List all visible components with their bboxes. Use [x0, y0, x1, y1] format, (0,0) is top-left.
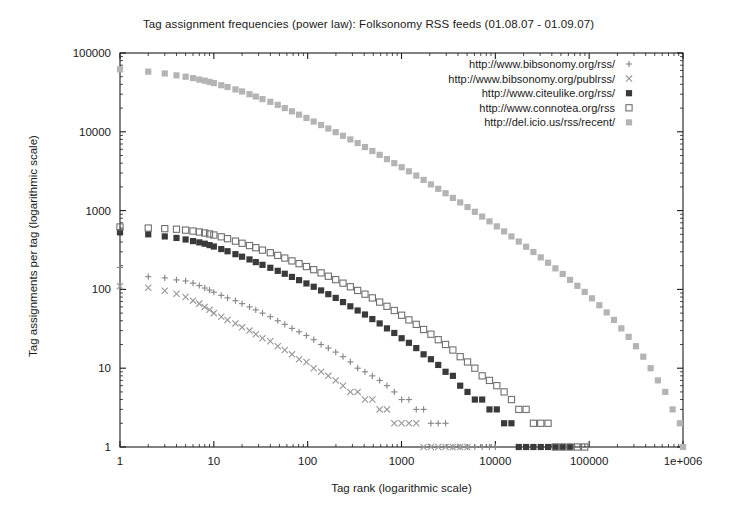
marker-open-square — [501, 389, 507, 395]
marker-open-square — [267, 250, 273, 256]
marker-open-square — [538, 420, 544, 426]
marker-light-square — [435, 186, 441, 192]
marker-filled-square — [340, 299, 346, 305]
marker-filled-square — [282, 271, 288, 277]
marker-light-square — [362, 144, 368, 150]
marker-light-square — [596, 302, 602, 308]
marker-filled-square — [442, 369, 448, 375]
marker-light-square — [545, 260, 551, 266]
x-tick-label: 100 — [298, 455, 317, 467]
marker-open-square — [391, 307, 397, 313]
marker-light-square — [626, 119, 632, 125]
marker-light-square — [173, 72, 179, 78]
marker-light-square — [211, 80, 217, 86]
marker-filled-square — [472, 396, 478, 402]
marker-open-square — [421, 326, 427, 332]
marker-open-square — [190, 228, 196, 234]
marker-filled-square — [333, 295, 339, 301]
marker-light-square — [457, 199, 463, 205]
marker-open-square — [435, 337, 441, 343]
marker-light-square — [450, 195, 456, 201]
marker-open-square — [377, 299, 383, 305]
marker-light-square — [501, 228, 507, 234]
marker-filled-square — [253, 259, 259, 265]
y-tick-label: 1 — [105, 441, 111, 453]
series-3 — [117, 224, 588, 450]
marker-filled-square — [318, 287, 324, 293]
y-tick-label: 1000 — [85, 205, 111, 217]
marker-light-square — [218, 82, 224, 88]
marker-open-square — [275, 252, 281, 258]
marker-light-square — [655, 377, 661, 383]
marker-filled-square — [239, 254, 245, 260]
marker-filled-square — [464, 389, 470, 395]
marker-filled-square — [377, 320, 383, 326]
marker-light-square — [224, 84, 230, 90]
marker-light-square — [582, 289, 588, 295]
marker-light-square — [289, 108, 295, 114]
marker-light-square — [567, 277, 573, 283]
marker-open-square — [173, 226, 179, 232]
marker-filled-square — [560, 444, 566, 450]
marker-light-square — [523, 244, 529, 250]
marker-light-square — [669, 406, 675, 412]
marker-filled-square — [516, 444, 522, 450]
marker-light-square — [479, 213, 485, 219]
marker-filled-square — [311, 284, 317, 290]
legend-label-1: http://www.bibsonomy.org/publrss/ — [448, 73, 616, 85]
marker-light-square — [472, 209, 478, 215]
chart-figure: Tag assignment frequencies (power law): … — [0, 0, 737, 516]
marker-light-square — [369, 148, 375, 154]
marker-light-square — [464, 204, 470, 210]
marker-open-square — [523, 406, 529, 412]
x-tick-label: 1 — [117, 455, 123, 467]
marker-open-square — [289, 258, 295, 264]
marker-light-square — [196, 76, 202, 82]
marker-light-square — [406, 168, 412, 174]
marker-light-square — [618, 325, 624, 331]
marker-light-square — [377, 152, 383, 158]
marker-filled-square — [523, 444, 529, 450]
marker-open-square — [333, 277, 339, 283]
marker-open-square — [296, 261, 302, 267]
marker-open-square — [626, 105, 632, 111]
marker-filled-square — [369, 316, 375, 322]
x-tick-label: 1e+006 — [664, 455, 703, 467]
marker-filled-square — [494, 406, 500, 412]
marker-light-square — [604, 309, 610, 315]
marker-light-square — [267, 99, 273, 105]
y-tick-label: 10000 — [79, 126, 111, 138]
y-tick-label: 100 — [92, 283, 111, 295]
marker-light-square — [384, 156, 390, 162]
marker-open-square — [442, 341, 448, 347]
marker-filled-square — [224, 248, 230, 254]
marker-light-square — [560, 271, 566, 277]
legend-label-0: http://www.bibsonomy.org/rss/ — [469, 58, 616, 70]
marker-filled-square — [259, 262, 265, 268]
marker-open-square — [162, 226, 168, 232]
marker-light-square — [538, 254, 544, 260]
marker-light-square — [333, 129, 339, 135]
marker-filled-square — [428, 356, 434, 362]
marker-light-square — [282, 105, 288, 111]
marker-filled-square — [232, 251, 238, 257]
marker-filled-square — [325, 291, 331, 297]
marker-light-square — [633, 343, 639, 349]
marker-open-square — [239, 240, 245, 246]
marker-open-square — [318, 270, 324, 276]
marker-open-square — [464, 359, 470, 365]
marker-open-square — [545, 420, 551, 426]
marker-filled-square — [626, 90, 632, 96]
marker-open-square — [311, 267, 317, 273]
marker-filled-square — [173, 235, 179, 241]
marker-filled-square — [421, 351, 427, 357]
marker-open-square — [218, 234, 224, 240]
marker-light-square — [626, 334, 632, 340]
x-tick-label: 10 — [207, 455, 220, 467]
marker-open-square — [282, 255, 288, 261]
marker-light-square — [117, 66, 123, 72]
marker-open-square — [384, 303, 390, 309]
marker-filled-square — [196, 239, 202, 245]
marker-open-square — [362, 291, 368, 297]
x-tick-label: 100000 — [570, 455, 608, 467]
